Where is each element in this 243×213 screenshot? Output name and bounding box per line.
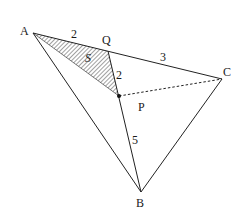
geometry-diagram: A Q C P B 2 3 2 5 S [0, 0, 243, 213]
label-a: A [20, 24, 29, 38]
dashed-segment-pc [119, 79, 222, 96]
side-ac [33, 33, 222, 79]
length-qc: 3 [160, 50, 166, 64]
point-p-dot [117, 94, 121, 98]
label-q: Q [102, 33, 111, 47]
label-b: B [136, 196, 144, 210]
side-cb [141, 79, 222, 192]
segment-qb [108, 51, 141, 192]
label-p: P [138, 100, 145, 114]
label-region-s: S [85, 51, 91, 65]
length-pb: 5 [132, 133, 138, 147]
length-aq: 2 [71, 27, 77, 41]
length-qp: 2 [116, 68, 122, 82]
label-c: C [223, 65, 231, 79]
